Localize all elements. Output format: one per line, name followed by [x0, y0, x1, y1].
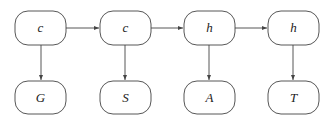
- node-label: c: [38, 20, 44, 35]
- node-t: T: [268, 81, 319, 114]
- node-c-2: c: [100, 11, 151, 45]
- node-h-4: h: [268, 11, 319, 45]
- node-label: G: [36, 90, 46, 105]
- node-label: A: [205, 90, 214, 105]
- node-label: h: [290, 20, 297, 35]
- node-label: h: [206, 20, 213, 35]
- node-a: A: [184, 81, 235, 114]
- node-label: S: [122, 90, 129, 105]
- node-h-3: h: [184, 11, 235, 45]
- node-c-1: c: [15, 11, 66, 45]
- node-g: G: [15, 81, 66, 114]
- diagram-canvas: c c h h G S A T: [0, 0, 333, 121]
- node-label: T: [290, 90, 298, 105]
- node-s: S: [100, 81, 151, 114]
- node-label: c: [123, 20, 129, 35]
